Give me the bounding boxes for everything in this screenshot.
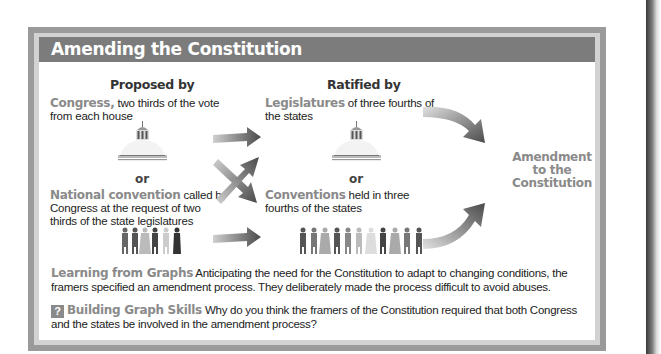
proposed-by-heading: Proposed by xyxy=(110,77,194,92)
or-separator-ratified: or xyxy=(349,172,363,186)
figure-frame: Amending the Constitution Proposed by Ra… xyxy=(28,27,606,351)
question-icon: ? xyxy=(51,305,64,318)
title-bar: Amending the Constitution xyxy=(39,37,595,62)
people-group-icon xyxy=(120,227,186,255)
ratification-legislatures-label: Legislatures xyxy=(265,96,345,110)
capitol-dome-icon xyxy=(329,121,384,163)
skills-heading: Building Graph Skills xyxy=(67,303,202,317)
proposal-convention: National convention called by Congress a… xyxy=(50,189,228,228)
result-line-3: Constitution xyxy=(497,177,607,190)
ratification-legislatures: Legislatures of three fourths of the sta… xyxy=(265,97,435,123)
ratification-conventions: Conventions held in three fourths of the… xyxy=(265,189,445,215)
learning-from-graphs-note: Learning from Graphs Anticipating the ne… xyxy=(51,267,591,294)
building-graph-skills-note: ?Building Graph Skills Why do you think … xyxy=(51,304,591,332)
page-edge-texture xyxy=(646,0,661,354)
capitol-dome-icon xyxy=(115,121,170,163)
or-separator-proposed: or xyxy=(135,172,149,186)
learning-heading: Learning from Graphs xyxy=(51,266,193,280)
ratification-conventions-label: Conventions xyxy=(265,188,346,202)
proposal-congress-label: Congress, xyxy=(50,96,114,110)
figure-panel: Amending the Constitution Proposed by Ra… xyxy=(39,37,595,340)
amendment-result: Amendment to the Constitution xyxy=(497,151,607,190)
proposal-congress: Congress, two thirds of the vote from ea… xyxy=(50,97,220,123)
proposal-convention-label: National convention xyxy=(50,188,181,202)
figure-title: Amending the Constitution xyxy=(51,39,302,59)
ratified-by-heading: Ratified by xyxy=(327,77,401,92)
curved-flow-arrows xyxy=(423,99,495,249)
flow-arrows xyxy=(213,97,265,267)
